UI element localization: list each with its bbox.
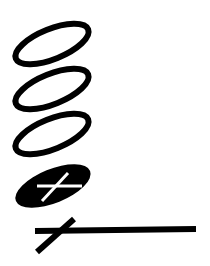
filled-ellipse-with-cross	[10, 155, 97, 216]
diagonal-stroke	[37, 219, 74, 252]
open-ellipse-3	[10, 105, 94, 162]
open-ellipse-2	[10, 60, 94, 117]
notation-diagram	[0, 0, 210, 266]
open-ellipse-1	[10, 15, 94, 72]
cross-with-line	[35, 219, 196, 252]
